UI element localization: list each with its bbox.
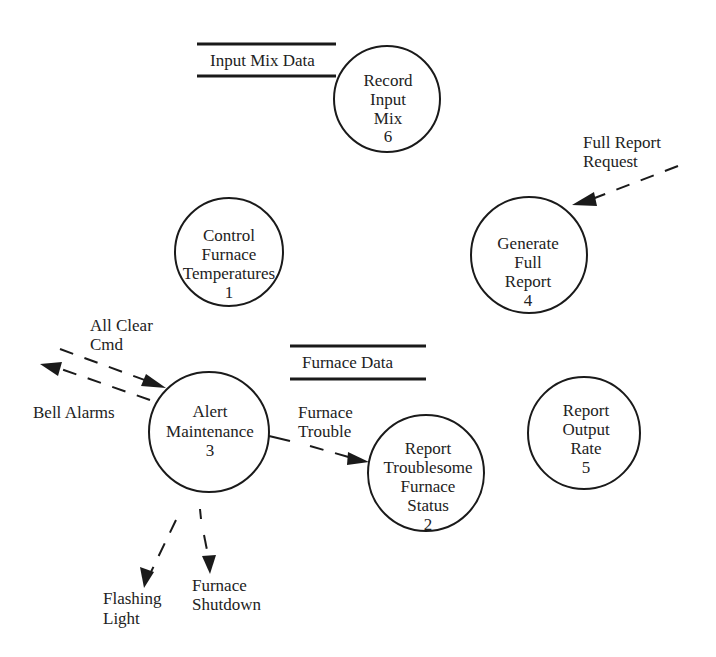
process-label-line: Report <box>563 401 610 420</box>
flow-bell-alarms: Bell Alarms <box>33 362 150 422</box>
process-label-line: Furnace <box>401 477 456 496</box>
flow-label: Trouble <box>298 422 351 441</box>
process-label-line: Temperatures <box>183 264 275 283</box>
flow-all-clear-cmd: All Clear Cmd <box>60 316 166 388</box>
data-store-furnace-data: Furnace Data <box>290 346 426 379</box>
dashed-flow-line <box>150 520 176 574</box>
data-store-label: Furnace Data <box>302 353 394 372</box>
process-generate-full-report: Generate Full Report 4 <box>471 197 587 313</box>
process-label-line: Status <box>407 496 449 515</box>
arrowhead-icon <box>347 452 369 465</box>
data-store-input-mix-data: Input Mix Data <box>197 44 336 76</box>
process-label-line: Record <box>363 71 413 90</box>
process-report-output-rate: Report Output Rate 5 <box>528 377 640 489</box>
flow-label: Shutdown <box>192 595 261 614</box>
process-label-line: Report <box>405 439 452 458</box>
flow-label: Cmd <box>90 335 124 354</box>
flow-label: Furnace <box>192 576 247 595</box>
process-number: 2 <box>424 515 433 534</box>
process-control-furnace-temperatures: Control Furnace Temperatures 1 <box>175 198 283 306</box>
arrowhead-icon <box>40 362 62 376</box>
flow-label: Bell Alarms <box>33 403 115 422</box>
process-label-line: Control <box>203 226 255 245</box>
flow-line-stub <box>200 509 201 519</box>
dashed-flow-line <box>58 368 150 400</box>
flow-label: Furnace <box>298 403 353 422</box>
flow-line-stub <box>269 436 290 441</box>
process-label-line: Alert <box>193 402 228 421</box>
process-number: 1 <box>225 283 234 302</box>
process-label-line: Rate <box>570 439 601 458</box>
process-label-line: Full <box>514 253 542 272</box>
process-label-line: Generate <box>497 234 558 253</box>
process-number: 3 <box>206 441 215 460</box>
data-store-label: Input Mix Data <box>210 51 315 70</box>
process-number: 4 <box>524 291 533 310</box>
arrowhead-icon <box>141 374 166 388</box>
flow-label: Full Report <box>583 133 661 152</box>
dashed-flow-line <box>310 446 352 458</box>
process-label-line: Output <box>562 420 610 439</box>
flow-label: Flashing <box>103 589 162 608</box>
process-report-troublesome-furnace-status: Report Troublesome Furnace Status 2 <box>368 415 484 534</box>
flow-label: All Clear <box>90 316 153 335</box>
flow-label: Request <box>583 152 638 171</box>
process-label-line: Mix <box>374 109 403 128</box>
process-label-line: Report <box>505 272 552 291</box>
arrowhead-icon <box>202 555 216 574</box>
arrowhead-icon <box>572 192 597 206</box>
process-number: 5 <box>582 458 591 477</box>
process-label-line: Furnace <box>202 245 257 264</box>
process-label-line: Troublesome <box>383 458 472 477</box>
flow-flashing-light: Flashing Light <box>103 520 176 628</box>
flow-label: Light <box>103 609 140 628</box>
flow-full-report-request: Full Report Request <box>572 133 678 206</box>
process-record-input-mix: Record Input Mix 6 <box>334 46 440 152</box>
process-number: 6 <box>384 127 393 146</box>
process-label-line: Input <box>370 90 406 109</box>
process-label-line: Maintenance <box>166 422 254 441</box>
data-flow-diagram: Input Mix Data Record Input Mix 6 Contro… <box>0 0 716 657</box>
process-alert-maintenance: Alert Maintenance 3 <box>149 372 269 492</box>
flow-furnace-trouble: Furnace Trouble <box>269 403 369 465</box>
flow-furnace-shutdown: Furnace Shutdown <box>192 509 261 614</box>
